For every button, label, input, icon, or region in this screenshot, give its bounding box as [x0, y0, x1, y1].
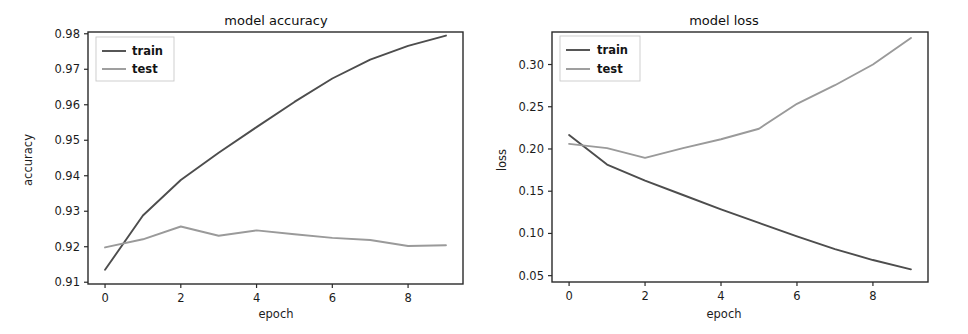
x-axis-label: epoch — [706, 307, 741, 321]
y-tick-label: 0.15 — [518, 184, 544, 198]
x-tick-label: 6 — [793, 289, 800, 303]
y-axis-label: loss — [495, 149, 509, 171]
y-tick-label: 0.97 — [54, 62, 80, 76]
y-axis-group: 0.050.100.150.200.250.30 loss — [495, 58, 552, 283]
x-tick-label: 4 — [717, 289, 724, 303]
matplotlib-figure: model accuracy 0.910.920.930.940.950.960… — [0, 0, 968, 334]
series-line-train — [569, 135, 911, 269]
chart-title: model accuracy — [224, 13, 328, 28]
y-tick-label: 0.30 — [518, 58, 544, 72]
chart-panel-model-loss: model loss 0.050.100.150.200.250.30 loss… — [484, 0, 968, 334]
legend: train test — [560, 36, 640, 81]
y-tick-label: 0.96 — [54, 98, 80, 112]
accuracy-chart-svg: model accuracy 0.910.920.930.940.950.960… — [0, 0, 484, 334]
y-tick-label: 0.10 — [518, 226, 544, 240]
x-axis-group: 02468 epoch — [101, 284, 411, 321]
x-tick-label: 0 — [565, 289, 572, 303]
y-tick-label: 0.92 — [54, 240, 80, 254]
y-tick-label: 0.91 — [54, 275, 80, 289]
x-tick-label: 8 — [869, 289, 876, 303]
chart-title: model loss — [689, 13, 759, 28]
y-tick-label: 0.98 — [54, 27, 80, 41]
legend-label-test: test — [132, 62, 158, 76]
legend-label-test: test — [597, 62, 623, 76]
y-tick-label: 0.05 — [518, 269, 544, 283]
legend: train test — [96, 37, 174, 81]
x-tick-label: 6 — [329, 291, 336, 305]
x-tick-label: 2 — [641, 289, 648, 303]
x-tick-label: 0 — [101, 291, 108, 305]
x-tick-label: 4 — [253, 291, 260, 305]
x-tick-label: 2 — [177, 291, 184, 305]
y-tick-label: 0.95 — [54, 133, 80, 147]
series-line-test — [105, 227, 446, 248]
y-tick-label: 0.20 — [518, 142, 544, 156]
y-tick-label: 0.94 — [54, 169, 80, 183]
y-axis-label: accuracy — [21, 134, 35, 186]
y-axis-group: 0.910.920.930.940.950.960.970.98 accurac… — [21, 27, 88, 289]
x-axis-group: 02468 epoch — [565, 282, 876, 321]
chart-panel-model-accuracy: model accuracy 0.910.920.930.940.950.960… — [0, 0, 484, 334]
y-tick-label: 0.25 — [518, 100, 544, 114]
loss-chart-svg: model loss 0.050.100.150.200.250.30 loss… — [484, 0, 968, 334]
legend-label-train: train — [132, 44, 163, 58]
y-tick-label: 0.93 — [54, 204, 80, 218]
legend-label-train: train — [597, 43, 628, 57]
x-tick-label: 8 — [404, 291, 411, 305]
x-axis-label: epoch — [258, 307, 293, 321]
